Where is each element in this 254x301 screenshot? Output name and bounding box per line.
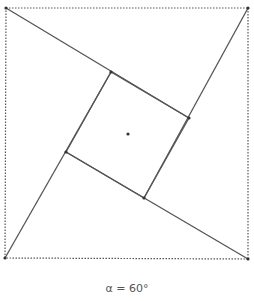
pinwheel-diagram — [0, 0, 254, 301]
vertex-point — [187, 116, 190, 119]
angle-label: α = 60° — [0, 282, 254, 295]
inner-square-edge — [144, 118, 189, 198]
center-point — [126, 132, 129, 135]
vertex-point — [142, 196, 145, 199]
outer-square-edge — [5, 258, 248, 259]
vertex-point — [246, 6, 249, 9]
outer-square-edge — [5, 8, 6, 258]
vertex-point — [64, 150, 67, 153]
vertex-point — [109, 70, 112, 73]
inner-square-edge — [111, 72, 189, 118]
vertex-point — [3, 256, 6, 259]
inner-square-edge — [66, 72, 111, 152]
vertex-point — [4, 6, 7, 9]
inner-square-edge — [66, 152, 144, 198]
vertex-points — [3, 6, 249, 260]
vertex-point — [246, 257, 249, 260]
